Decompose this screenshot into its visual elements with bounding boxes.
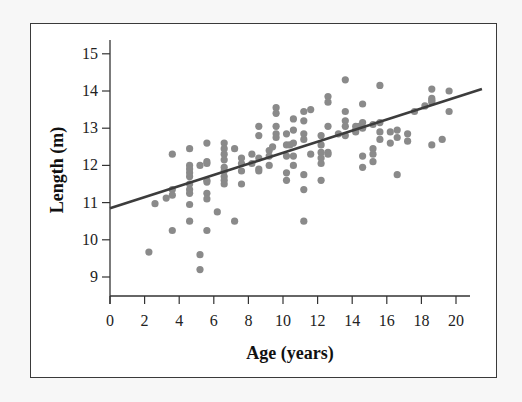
data-point	[169, 151, 176, 158]
data-point	[404, 138, 411, 145]
data-point	[318, 160, 325, 167]
y-tick-label: 12	[82, 156, 98, 173]
data-point	[300, 218, 307, 225]
x-tick-label: 4	[175, 312, 183, 329]
data-point	[446, 108, 453, 115]
data-point	[324, 123, 331, 130]
data-point	[266, 162, 273, 169]
data-point	[169, 227, 176, 234]
y-tick-label: 9	[90, 268, 98, 285]
data-point	[255, 123, 262, 130]
y-tick-label: 14	[82, 82, 98, 99]
data-point	[196, 162, 203, 169]
data-point	[369, 151, 376, 158]
data-point	[342, 123, 349, 130]
data-point	[186, 201, 193, 208]
data-point	[318, 177, 325, 184]
x-tick-label: 20	[448, 312, 464, 329]
data-point	[238, 180, 245, 187]
fit-line	[110, 89, 482, 208]
x-tick-label: 18	[413, 312, 429, 329]
data-point	[231, 218, 238, 225]
y-tick-label: 13	[82, 119, 98, 136]
data-point	[404, 130, 411, 137]
y-tick-label: 10	[82, 231, 98, 248]
data-point	[359, 153, 366, 160]
data-point	[376, 136, 383, 143]
data-point	[221, 156, 228, 163]
data-point	[283, 169, 290, 176]
data-point	[283, 177, 290, 184]
data-point	[300, 186, 307, 193]
data-point	[369, 158, 376, 165]
data-point	[273, 123, 280, 130]
data-point	[221, 180, 228, 187]
data-point	[439, 136, 446, 143]
data-point	[273, 134, 280, 141]
data-point	[387, 128, 394, 135]
data-point	[290, 140, 297, 147]
data-point	[290, 127, 297, 134]
data-point	[376, 82, 383, 89]
data-point	[359, 164, 366, 171]
data-point	[203, 140, 210, 147]
data-points	[145, 76, 452, 273]
data-point	[283, 130, 290, 137]
y-tick-label: 11	[83, 194, 98, 211]
y-axis-title: Length (m)	[47, 127, 68, 214]
data-point	[238, 167, 245, 174]
data-point	[300, 108, 307, 115]
data-point	[300, 136, 307, 143]
x-tick-label: 0	[106, 312, 114, 329]
regression-line	[110, 89, 482, 208]
data-point	[196, 266, 203, 273]
data-point	[394, 171, 401, 178]
data-point	[203, 179, 210, 186]
data-point	[273, 110, 280, 117]
data-point	[203, 195, 210, 202]
data-point	[307, 106, 314, 113]
data-point	[359, 100, 366, 107]
data-point	[342, 76, 349, 83]
x-tick-label: 16	[379, 312, 395, 329]
data-point	[394, 127, 401, 134]
data-point	[186, 190, 193, 197]
data-point	[248, 151, 255, 158]
data-point	[446, 87, 453, 94]
data-point	[269, 143, 276, 150]
data-point	[203, 227, 210, 234]
x-tick-label: 6	[210, 312, 218, 329]
data-point	[214, 208, 221, 215]
data-point	[186, 218, 193, 225]
data-point	[376, 128, 383, 135]
data-point	[255, 132, 262, 139]
data-point	[290, 115, 297, 122]
data-point	[290, 153, 297, 160]
x-tick-label: 12	[310, 312, 326, 329]
data-point	[163, 195, 170, 202]
data-point	[300, 171, 307, 178]
data-point	[394, 134, 401, 141]
data-point	[290, 162, 297, 169]
data-point	[255, 167, 262, 174]
data-point	[186, 173, 193, 180]
data-point	[324, 99, 331, 106]
data-point	[307, 151, 314, 158]
data-point	[169, 192, 176, 199]
data-point	[151, 200, 158, 207]
data-point	[324, 151, 331, 158]
x-tick-label: 2	[141, 312, 149, 329]
axes: 024681012141618209101112131415	[82, 40, 470, 329]
x-tick-label: 8	[244, 312, 252, 329]
data-point	[318, 132, 325, 139]
data-point	[145, 249, 152, 256]
data-point	[342, 108, 349, 115]
scatter-plot: 024681012141618209101112131415 Age (year…	[0, 0, 522, 402]
data-point	[428, 86, 435, 93]
y-tick-label: 15	[82, 45, 98, 62]
x-axis-title: Age (years)	[246, 343, 333, 364]
data-point	[231, 145, 238, 152]
x-tick-label: 14	[344, 312, 360, 329]
x-tick-label: 10	[275, 312, 291, 329]
data-point	[203, 160, 210, 167]
